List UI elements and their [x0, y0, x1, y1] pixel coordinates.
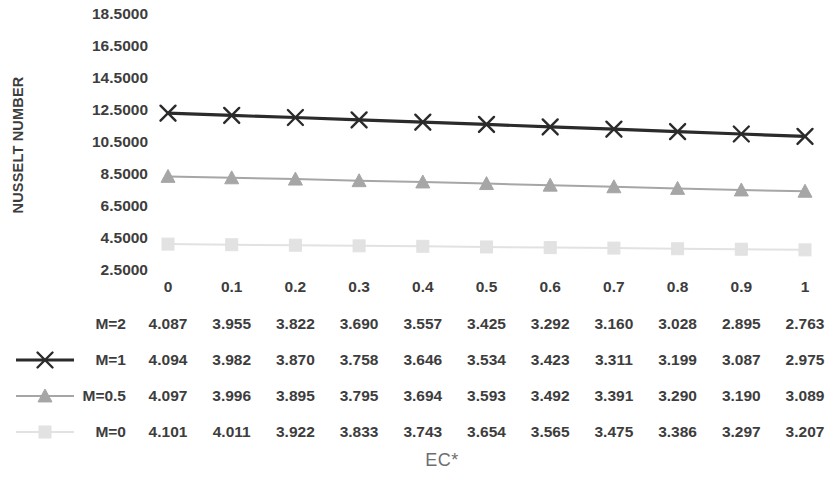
table-cell: 3.694 [403, 387, 442, 405]
data-table: M=24.0873.9553.8223.6903.5573.4253.2923.… [0, 306, 838, 450]
table-cell: 3.593 [467, 387, 506, 405]
table-row: M=14.0943.9823.8703.7583.6463.5343.4233.… [0, 342, 838, 378]
x-axis-tick-label: 0 [164, 278, 173, 296]
table-cell: 3.690 [340, 315, 379, 333]
table-cell: 3.955 [212, 315, 251, 333]
table-cell: 3.425 [467, 315, 506, 333]
x-axis-tick-label: 1 [801, 278, 810, 296]
table-cell: 3.795 [340, 387, 379, 405]
x-axis-tick-label: 0.8 [667, 278, 689, 296]
table-cell: 3.160 [594, 315, 633, 333]
table-cell: 3.822 [276, 315, 315, 333]
x-axis-tick-label: 0.2 [285, 278, 307, 296]
table-row-label: M=0.5 [0, 387, 126, 405]
plot-area [0, 0, 838, 290]
table-cell: 3.297 [722, 423, 761, 441]
series-line-m0 [162, 238, 811, 256]
series-line-m05 [161, 169, 812, 197]
series-line-m1 [161, 106, 813, 144]
data-point-marker-square [544, 242, 556, 254]
x-axis-tick-label: 0.7 [603, 278, 625, 296]
table-cell: 3.895 [276, 387, 315, 405]
table-cell: 3.996 [212, 387, 251, 405]
table-cell: 3.190 [722, 387, 761, 405]
data-point-marker-square [608, 242, 620, 254]
table-cell: 3.311 [595, 351, 633, 369]
table-cell: 4.094 [149, 351, 188, 369]
table-cell: 4.087 [149, 315, 188, 333]
table-row: M=24.0873.9553.8223.6903.5573.4253.2923.… [0, 306, 838, 342]
x-axis-title-label: EC* [379, 450, 459, 471]
table-cell: 3.207 [786, 423, 825, 441]
table-row-label: M=1 [0, 351, 126, 369]
table-cell: 3.475 [594, 423, 633, 441]
data-point-marker-square [162, 238, 174, 250]
table-cell: 3.743 [403, 423, 442, 441]
table-row: M=04.1014.0113.9223.8333.7433.6543.5653.… [0, 414, 838, 450]
table-cell: 3.386 [658, 423, 697, 441]
table-cell: 3.557 [403, 315, 442, 333]
chart-svg [0, 0, 838, 290]
table-cell: 3.534 [467, 351, 506, 369]
table-cell: 4.097 [149, 387, 188, 405]
data-point-marker-square [481, 241, 493, 253]
table-cell: 3.089 [786, 387, 825, 405]
data-point-marker-square [672, 243, 684, 255]
x-axis-tick-label: 0.4 [412, 278, 434, 296]
table-cell: 3.922 [276, 423, 315, 441]
table-row: M=0.54.0973.9963.8953.7953.6943.5933.492… [0, 378, 838, 414]
data-point-marker-square [289, 239, 301, 251]
x-axis-title: EC* [0, 450, 838, 471]
table-cell: 3.292 [531, 315, 570, 333]
table-cell: 3.199 [658, 351, 697, 369]
table-cell: 2.895 [722, 315, 761, 333]
x-axis-tick-label: 0.6 [539, 278, 561, 296]
table-cell: 2.763 [786, 315, 825, 333]
x-axis-tick-label: 0.1 [221, 278, 243, 296]
table-cell: 3.982 [212, 351, 251, 369]
table-cell: 4.011 [213, 423, 251, 441]
data-point-marker-square [799, 244, 811, 256]
table-row-label: M=0 [0, 423, 126, 441]
table-cell: 3.758 [340, 351, 379, 369]
table-cell: 3.290 [658, 387, 697, 405]
x-axis-tick-label: 0.5 [476, 278, 498, 296]
data-point-marker-square [353, 240, 365, 252]
x-axis-tick-label: 0.9 [731, 278, 753, 296]
table-cell: 3.565 [531, 423, 570, 441]
table-cell: 3.087 [722, 351, 761, 369]
table-cell: 3.646 [403, 351, 442, 369]
table-cell: 3.391 [594, 387, 633, 405]
table-cell: 3.423 [531, 351, 570, 369]
table-cell: 3.492 [531, 387, 570, 405]
data-point-marker-square [735, 243, 747, 255]
table-cell: 3.870 [276, 351, 315, 369]
data-point-marker-square [226, 239, 238, 251]
table-cell: 3.028 [658, 315, 697, 333]
data-point-marker-square [417, 240, 429, 252]
table-cell: 2.975 [786, 351, 825, 369]
table-cell: 4.101 [149, 423, 188, 441]
x-axis-tick-labels: 00.10.20.30.40.50.60.70.80.91 [0, 278, 838, 308]
table-cell: 3.833 [340, 423, 379, 441]
table-row-label: M=2 [0, 315, 126, 333]
table-cell: 3.654 [467, 423, 506, 441]
x-axis-tick-label: 0.3 [348, 278, 370, 296]
